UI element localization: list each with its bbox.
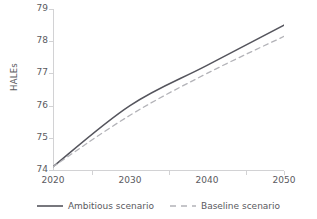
y-axis-tick (49, 138, 53, 139)
chart-legend: Ambitious scenario Baseline scenario (0, 198, 317, 214)
x-axis-tick (246, 171, 247, 175)
solid-line-swatch (37, 202, 63, 210)
legend-item-ambitious-scenario[interactable]: Ambitious scenario (37, 202, 154, 211)
legend-item-baseline-scenario[interactable]: Baseline scenario (170, 202, 280, 211)
y-axis-title: HALEs (9, 47, 19, 107)
hales-line-chart: HALEs 747576777879 2020203020402050 Ambi… (0, 0, 317, 219)
x-tick-label: 2030 (105, 176, 155, 185)
series-line-baseline-scenario (53, 36, 284, 166)
x-axis-tick (92, 171, 93, 175)
y-axis-tick (49, 41, 53, 42)
x-axis-tick (284, 171, 285, 175)
y-tick-label: 78 (22, 36, 48, 45)
x-tick-label: 2020 (28, 176, 78, 185)
y-axis-tick (49, 106, 53, 107)
y-axis-tick-labels: 747576777879 (20, 0, 48, 180)
plot-area (53, 9, 284, 170)
x-axis-tick (169, 171, 170, 175)
series-line-ambitious-scenario (53, 25, 284, 167)
x-tick-label: 2050 (259, 176, 309, 185)
y-axis-tick (49, 73, 53, 74)
y-tick-label: 74 (22, 165, 48, 174)
x-axis-tick-labels: 2020203020402050 (0, 176, 317, 190)
y-tick-label: 76 (22, 101, 48, 110)
legend-label-baseline-scenario: Baseline scenario (201, 202, 280, 211)
x-tick-label: 2040 (182, 176, 232, 185)
y-axis-tick (49, 170, 53, 171)
y-tick-label: 79 (22, 4, 48, 13)
legend-label-ambitious-scenario: Ambitious scenario (68, 202, 154, 211)
dashed-line-swatch (170, 202, 196, 210)
y-tick-label: 75 (22, 133, 48, 142)
y-axis-tick (49, 9, 53, 10)
y-tick-label: 77 (22, 68, 48, 77)
